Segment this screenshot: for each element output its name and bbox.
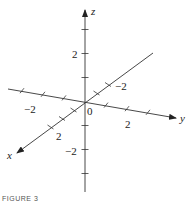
x-tick-label-neg2: −2 — [115, 80, 127, 92]
y-tick — [41, 92, 45, 97]
z-tick-label-2: 2 — [72, 48, 78, 60]
y-tick — [62, 95, 66, 100]
y-tick-label-neg2: −2 — [24, 103, 36, 115]
y-tick — [20, 88, 24, 93]
y-tick-label-2: 2 — [125, 118, 131, 130]
axes-diagram: z y x 2 −2 −2 2 −2 2 0 FIGURE 3 — [0, 0, 191, 203]
y-tick — [146, 110, 150, 115]
y-tick — [104, 103, 108, 108]
origin-label: 0 — [87, 105, 93, 117]
z-axis-label: z — [90, 5, 96, 17]
y-tick — [125, 106, 129, 111]
x-axis-label: x — [6, 149, 12, 161]
y-axis-label: y — [179, 112, 185, 124]
x-tick-label-2: 2 — [56, 130, 62, 142]
z-tick-label-neg2: −2 — [65, 145, 77, 157]
figure-caption: FIGURE 3 — [2, 195, 38, 202]
